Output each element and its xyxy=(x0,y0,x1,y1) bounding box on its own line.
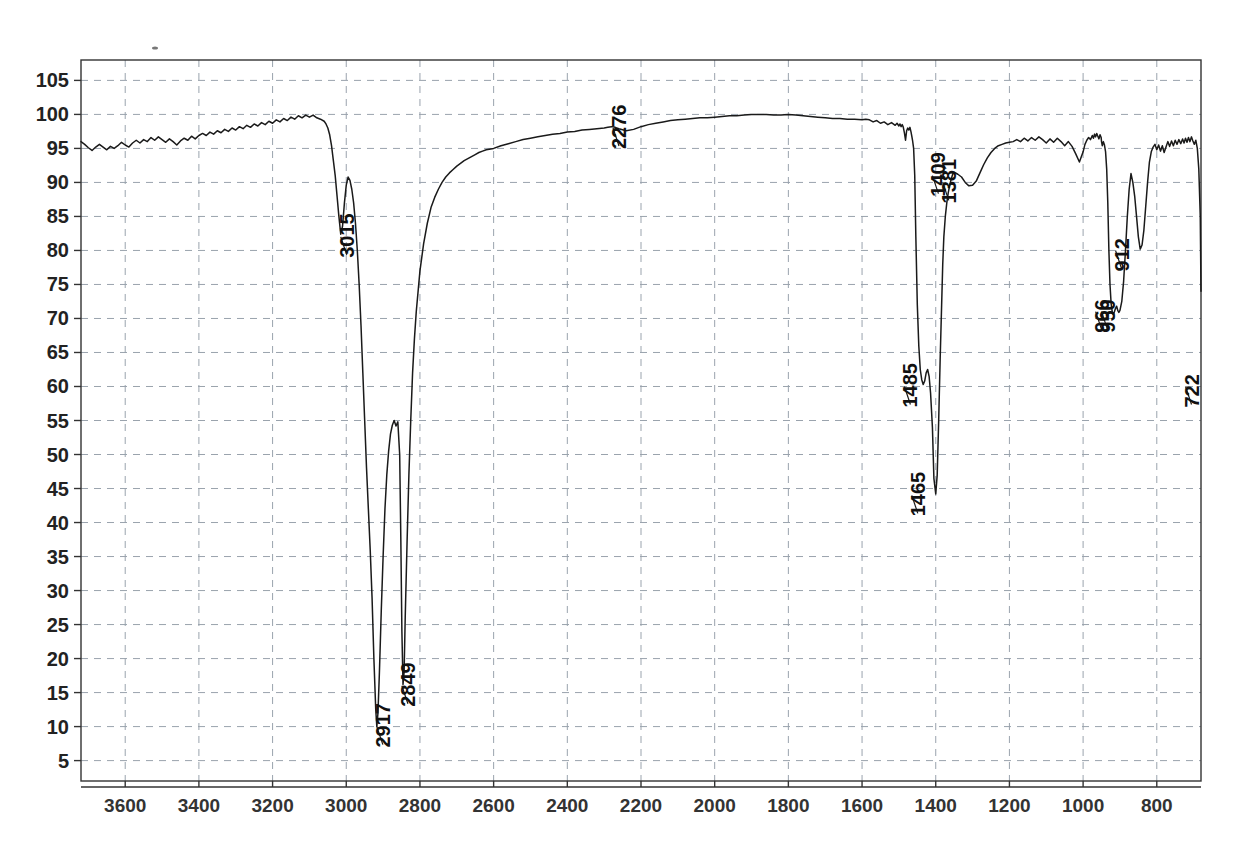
x-tick-label: 3400 xyxy=(178,795,220,816)
y-tick-label: 5 xyxy=(58,750,69,772)
peak-label: 1465 xyxy=(907,472,929,517)
peak-label: 950 xyxy=(1097,299,1119,332)
y-tick-label: 85 xyxy=(47,205,69,227)
y-tick-label: 95 xyxy=(47,137,69,159)
speck-mark xyxy=(152,46,158,49)
spectrum-canvas: 5101520253035404550556065707580859095100… xyxy=(0,0,1251,844)
x-tick-label: 2000 xyxy=(694,795,736,816)
x-tick-label: 3000 xyxy=(325,795,367,816)
x-tick-label: 3200 xyxy=(251,795,293,816)
peak-label: 722 xyxy=(1181,374,1203,407)
peak-label: 3015 xyxy=(336,213,358,258)
x-tick-label: 1000 xyxy=(1062,795,1104,816)
y-tick-label: 20 xyxy=(47,648,69,670)
y-tick-label: 45 xyxy=(47,478,69,500)
y-tick-label: 50 xyxy=(47,444,69,466)
y-tick-label: 10 xyxy=(47,716,69,738)
x-tick-label: 1600 xyxy=(841,795,883,816)
y-tick-label: 65 xyxy=(47,341,69,363)
x-axis-tick-labels: 3600340032003000280026002400220020001800… xyxy=(104,795,1173,816)
y-tick-label: 75 xyxy=(47,273,69,295)
x-tick-label: 2600 xyxy=(472,795,514,816)
y-tick-label: 35 xyxy=(47,546,69,568)
y-tick-label: 60 xyxy=(47,375,69,397)
y-tick-label: 25 xyxy=(47,614,69,636)
peak-label: 1485 xyxy=(899,363,921,408)
x-tick-label: 2200 xyxy=(620,795,662,816)
x-tick-label: 3600 xyxy=(104,795,146,816)
y-tick-label: 105 xyxy=(36,69,69,91)
y-tick-label: 100 xyxy=(36,103,69,125)
y-tick-label: 40 xyxy=(47,512,69,534)
peak-label: 2849 xyxy=(397,662,419,707)
ir-spectrum-chart: 5101520253035404550556065707580859095100… xyxy=(0,0,1251,844)
x-tick-label: 1200 xyxy=(988,795,1030,816)
y-tick-label: 80 xyxy=(47,239,69,261)
peak-label: 912 xyxy=(1111,238,1133,271)
peak-label: 2276 xyxy=(608,105,630,150)
x-tick-label: 2400 xyxy=(546,795,588,816)
y-tick-label: 70 xyxy=(47,307,69,329)
peak-label: 1381 xyxy=(938,159,960,204)
x-tick-label: 800 xyxy=(1141,795,1173,816)
x-tick-label: 1400 xyxy=(915,795,957,816)
y-tick-label: 30 xyxy=(47,580,69,602)
y-tick-label: 15 xyxy=(47,682,69,704)
peak-label: 2917 xyxy=(372,703,394,748)
y-tick-label: 55 xyxy=(47,410,69,432)
scan-artifacts xyxy=(152,46,158,49)
y-tick-label: 90 xyxy=(47,171,69,193)
x-tick-label: 2800 xyxy=(399,795,441,816)
x-tick-label: 1800 xyxy=(767,795,809,816)
